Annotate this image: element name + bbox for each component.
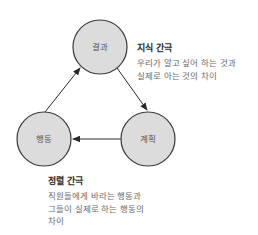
node-plan: 계획: [121, 112, 175, 166]
node-result-label: 결과: [92, 42, 108, 52]
node-plan-label: 계획: [140, 134, 156, 144]
knowledge-gap-line: 실제로 아는 것의 차이: [137, 70, 236, 83]
node-action: 행동: [17, 112, 71, 166]
alignment-gap-line: 그들이 실제로 하는 행동의: [48, 203, 144, 216]
alignment-gap-note: 정렬 간극 직원들에게 바라는 행동과 그들이 실제로 하는 행동의 차이: [48, 175, 144, 228]
knowledge-gap-title: 지식 간극: [137, 42, 236, 54]
node-action-label: 행동: [36, 134, 52, 144]
knowledge-gap-note: 지식 간극 우리가 알고 싶어 하는 것과 실제로 아는 것의 차이: [137, 42, 236, 82]
alignment-gap-title: 정렬 간극: [48, 175, 144, 187]
node-result: 결과: [73, 20, 127, 74]
knowledge-gap-line: 우리가 알고 싶어 하는 것과: [137, 57, 236, 70]
alignment-gap-line: 차이: [48, 215, 144, 228]
alignment-gap-line: 직원들에게 바라는 행동과: [48, 190, 144, 203]
arrow-action-to-result: [45, 68, 80, 112]
